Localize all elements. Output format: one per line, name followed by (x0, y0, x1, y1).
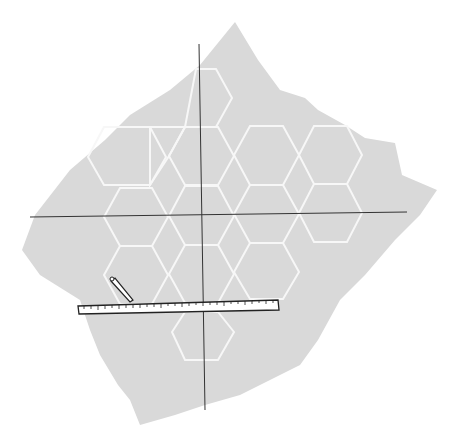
illustration (0, 0, 459, 446)
